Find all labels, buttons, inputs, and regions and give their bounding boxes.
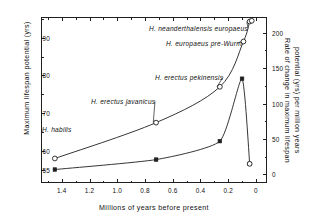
- annotation-erectus-pekinensis: H. erectus pekinensis: [155, 74, 223, 81]
- data-point-open-circle-0-5: [249, 18, 254, 23]
- data-point-filled-square-1-3: [240, 77, 244, 81]
- data-series-layer: [0, 0, 319, 223]
- data-point-open-circle-0-0: [52, 156, 57, 161]
- data-point-filled-square-1-1: [154, 158, 158, 162]
- annotation-leader-lines: [153, 22, 248, 123]
- y-axis-right-title: Rate of change in maximum lifespan poten…: [281, 17, 315, 183]
- data-point-open-circle-0-1: [154, 120, 159, 125]
- data-point-rate-terminal-open-circle: [247, 161, 252, 166]
- data-point-filled-square-1-0: [53, 168, 57, 172]
- annotation-europaeus-pre-wurm: H. europaeus pre-Wurm: [166, 40, 242, 47]
- annotation-habilis: H. habilis: [42, 126, 72, 133]
- y-axis-right-title-line-2: potential (yrs) per million years: [292, 17, 301, 183]
- annotation-neanderthalensis-europaeus: H. neanderthalensis europaeus: [149, 25, 248, 32]
- figure-container: 1.41.21.00.80.60.40.20908070605520015010…: [0, 0, 319, 223]
- data-point-filled-square-1-2: [218, 139, 222, 143]
- annotation-erectus-javanicus: H. erectus javanicus: [91, 98, 155, 105]
- y-axis-left-title: Maximum lifespan potential (yrs): [23, 0, 31, 158]
- y-axis-right-title-line-1: Rate of change in maximum lifespan: [282, 17, 291, 183]
- x-axis-title: Millions of years before present: [41, 204, 267, 212]
